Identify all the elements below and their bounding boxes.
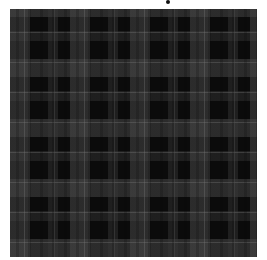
- image-canvas: [0, 0, 267, 260]
- plaid-fabric-image: [10, 9, 257, 257]
- caption-fragment: [166, 0, 170, 4]
